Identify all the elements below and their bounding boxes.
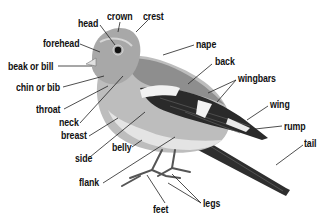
label-neck: neck bbox=[59, 118, 79, 128]
label-chin-or-bib: chin or bib bbox=[16, 83, 60, 93]
label-back: back bbox=[215, 57, 235, 67]
label-flank: flank bbox=[79, 178, 99, 188]
bird-anatomy-diagram: head crown crest forehead beak or bill c… bbox=[0, 0, 332, 222]
label-beak-or-bill: beak or bill bbox=[8, 62, 53, 72]
label-feet: feet bbox=[153, 205, 168, 215]
label-legs: legs bbox=[203, 199, 220, 209]
label-wing: wing bbox=[270, 100, 290, 110]
bird-legs bbox=[122, 150, 190, 186]
label-crest: crest bbox=[143, 12, 164, 22]
label-forehead: forehead bbox=[43, 39, 79, 49]
label-tail: tail bbox=[304, 139, 316, 149]
bird-tail bbox=[198, 140, 290, 196]
bird-eye bbox=[115, 47, 121, 53]
bird-beak bbox=[86, 58, 96, 66]
label-nape: nape bbox=[196, 40, 216, 50]
label-belly: belly bbox=[112, 143, 132, 153]
label-throat: throat bbox=[36, 105, 60, 115]
label-breast: breast bbox=[61, 131, 87, 141]
label-crown: crown bbox=[107, 12, 132, 22]
label-side: side bbox=[75, 154, 92, 164]
label-rump: rump bbox=[284, 122, 306, 132]
label-wingbars: wingbars bbox=[238, 74, 276, 84]
label-head: head bbox=[78, 19, 98, 29]
